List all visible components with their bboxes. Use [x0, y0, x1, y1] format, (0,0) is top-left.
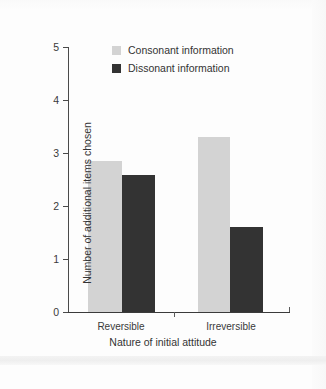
- y-axis-line: [68, 47, 69, 312]
- x-tick-separator: [174, 312, 175, 317]
- plot-area: 5 4 3 2 1 0 Reversible Irreversible Numb…: [68, 47, 290, 312]
- y-tick-3: 3: [63, 153, 68, 154]
- bar-irreversible-dissonant: [230, 227, 263, 312]
- y-tick-5: 5: [63, 47, 68, 48]
- x-tick-label-reversible: Reversible: [97, 321, 144, 332]
- scan-edge-top: [0, 0, 326, 10]
- y-tick-0: 0: [63, 312, 68, 313]
- scan-edge-right: [312, 0, 326, 389]
- y-tick-4: 4: [63, 100, 68, 101]
- y-tick-label-0: 0: [53, 306, 59, 318]
- y-tick-1: 1: [63, 259, 68, 260]
- bar-reversible-dissonant: [122, 175, 155, 312]
- x-axis-end-cap: [289, 307, 290, 312]
- bar-irreversible-consonant: [198, 137, 230, 312]
- y-tick-label-5: 5: [53, 41, 59, 53]
- y-tick-2: 2: [63, 206, 68, 207]
- x-tick-label-irreversible: Irreversible: [206, 321, 255, 332]
- scan-edge-bottom: [0, 356, 326, 365]
- x-axis-line: [68, 312, 290, 313]
- bar-chart-figure: Consonant information Dissonant informat…: [0, 0, 326, 389]
- y-tick-label-2: 2: [53, 200, 59, 212]
- bar-reversible-consonant: [88, 161, 122, 312]
- y-tick-label-4: 4: [53, 94, 59, 106]
- y-axis-title: Number of additional items chosen: [81, 98, 93, 308]
- y-tick-label-3: 3: [53, 147, 59, 159]
- x-axis-title: Nature of initial attitude: [0, 336, 326, 348]
- y-tick-label-1: 1: [53, 253, 59, 265]
